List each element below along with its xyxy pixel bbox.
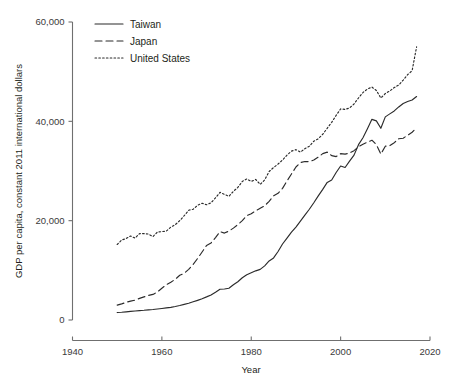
series-line-japan [117,128,416,305]
y-axis-tick-labels: 020,00040,00060,000 [35,16,64,325]
legend-label-taiwan: Taiwan [130,19,161,30]
chart-legend: TaiwanJapanUnited States [95,19,190,64]
x-tick-label: 2020 [419,346,440,357]
x-tick-label: 1940 [62,346,83,357]
y-axis-ticks [69,22,73,320]
y-tick-label: 0 [59,314,64,325]
y-tick-label: 20,000 [35,215,64,226]
series-line-united-states [117,47,416,245]
x-axis-tick-labels: 19401960198020002020 [62,346,441,357]
x-tick-label: 2000 [330,346,351,357]
legend-label-united-states: United States [130,53,190,64]
y-tick-label: 60,000 [35,16,64,27]
chart-canvas: 020,00040,00060,000 19401960198020002020… [0,0,450,387]
line-chart-figure: 020,00040,00060,000 19401960198020002020… [0,0,450,387]
y-axis-title: GDP per capita, constant 2011 internatio… [13,64,24,278]
x-tick-label: 1980 [241,346,262,357]
y-tick-label: 40,000 [35,116,64,127]
x-axis-ticks [73,337,431,341]
data-series-group [117,47,416,313]
x-axis-title: Year [241,364,260,375]
series-line-taiwan [117,97,416,313]
legend-label-japan: Japan [130,36,157,47]
x-tick-label: 1960 [151,346,172,357]
